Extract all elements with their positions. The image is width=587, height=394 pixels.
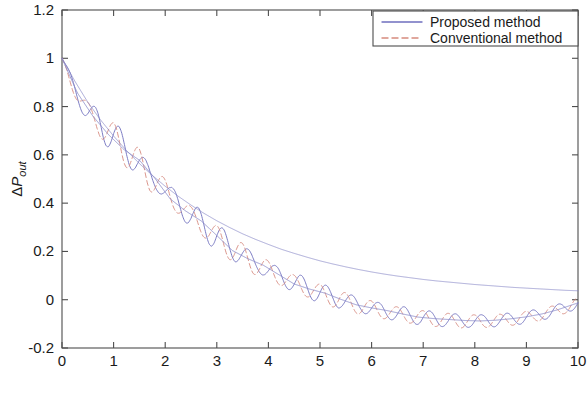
- plot-background: [62, 10, 578, 348]
- x-tick-label-8: 8: [471, 352, 479, 369]
- x-tick-label-3: 3: [213, 352, 221, 369]
- chart-canvas: 012345678910 -0.200.20.40.60.811.2 ΔPout…: [0, 0, 587, 394]
- y-tick-label-0: -0.2: [28, 339, 54, 356]
- legend[interactable]: Proposed method Conventional method: [373, 11, 578, 46]
- legend-label-conventional-method[interactable]: Conventional method: [430, 30, 562, 46]
- y-axis-title: ΔPout: [8, 160, 28, 196]
- svg-text:ΔPout: ΔPout: [8, 160, 28, 196]
- y-axis-title-subscript: out: [16, 160, 28, 176]
- y-tick-label-2: 0.2: [33, 242, 54, 259]
- y-tick-label-7: 1.2: [33, 1, 54, 18]
- x-tick-label-6: 6: [367, 352, 375, 369]
- legend-label-proposed-method[interactable]: Proposed method: [430, 14, 541, 30]
- y-tick-label-4: 0.6: [33, 146, 54, 163]
- y-tick-label-5: 0.8: [33, 98, 54, 115]
- x-tick-label-7: 7: [419, 352, 427, 369]
- y-axis-tick-labels: -0.200.20.40.60.811.2: [28, 1, 54, 356]
- y-tick-label-3: 0.4: [33, 194, 54, 211]
- x-tick-label-1: 1: [109, 352, 117, 369]
- x-tick-label-2: 2: [161, 352, 169, 369]
- figure-container: 012345678910 -0.200.20.40.60.811.2 ΔPout…: [0, 0, 587, 394]
- x-tick-label-9: 9: [522, 352, 530, 369]
- x-tick-label-0: 0: [58, 352, 66, 369]
- y-tick-label-1: 0: [46, 291, 54, 308]
- x-tick-label-4: 4: [264, 352, 272, 369]
- x-tick-label-5: 5: [316, 352, 324, 369]
- y-tick-label-6: 1: [46, 49, 54, 66]
- y-axis-title-delta: Δ: [8, 187, 25, 197]
- y-axis-title-main: P: [8, 177, 25, 187]
- x-axis-tick-labels: 012345678910: [58, 352, 587, 369]
- x-tick-label-10: 10: [570, 352, 587, 369]
